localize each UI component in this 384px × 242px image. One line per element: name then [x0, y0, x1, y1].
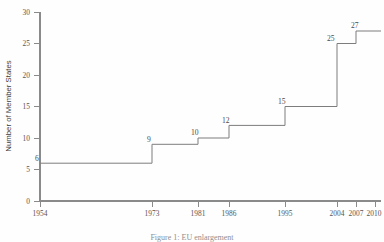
x-axis-tick-labels: 1954 1973 1981 1986 1995 2004 2007 2010 [33, 209, 382, 218]
x-tick-label-1995: 1995 [278, 209, 293, 218]
data-label-1973: 9 [147, 135, 151, 144]
x-tick-label-1973: 1973 [145, 209, 160, 218]
x-tick-label-1981: 1981 [191, 209, 206, 218]
y-tick-label-15: 15 [23, 102, 31, 111]
y-tick-label-25: 25 [23, 39, 31, 48]
data-label-2007: 27 [351, 21, 359, 30]
figure-caption: Figure 1: EU enlargement [0, 232, 384, 242]
data-label-1986: 12 [222, 116, 230, 125]
x-tick-label-1986: 1986 [222, 209, 237, 218]
data-label-1995: 15 [278, 97, 286, 106]
x-tick-label-1954: 1954 [33, 209, 48, 218]
y-tick-label-10: 10 [23, 134, 31, 143]
x-tick-label-2004: 2004 [330, 209, 345, 218]
step-line-series [40, 31, 381, 163]
y-tick-label-5: 5 [26, 165, 30, 174]
y-axis-ticks [34, 12, 40, 201]
step-chart: 0 5 10 15 20 25 30 1954 1973 1981 1986 1… [0, 0, 384, 242]
x-axis-ticks [40, 201, 375, 207]
figure-container: 0 5 10 15 20 25 30 1954 1973 1981 1986 1… [0, 0, 384, 242]
data-label-2004: 25 [327, 34, 335, 43]
y-tick-label-0: 0 [26, 197, 30, 206]
y-tick-label-30: 30 [23, 8, 31, 17]
data-point-labels: 6 9 10 12 15 25 27 [35, 21, 359, 162]
y-tick-label-20: 20 [23, 71, 31, 80]
x-tick-label-2007: 2007 [349, 209, 364, 218]
data-label-1981: 10 [191, 128, 199, 137]
x-tick-label-2010: 2010 [367, 209, 382, 218]
data-label-1954: 6 [35, 154, 39, 163]
y-axis-title: Number of Member States [4, 60, 13, 152]
y-axis-tick-labels: 0 5 10 15 20 25 30 [23, 8, 31, 206]
